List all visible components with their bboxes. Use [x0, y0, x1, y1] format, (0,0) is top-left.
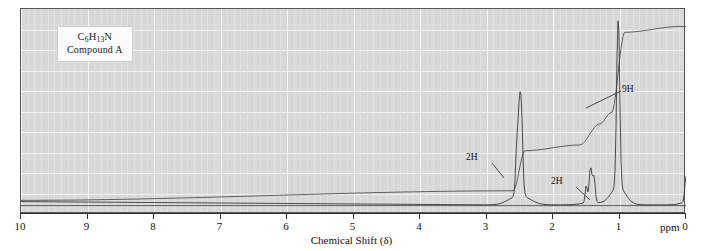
axis-tick [286, 213, 287, 219]
axis-tick-label: 10 [5, 220, 35, 232]
integration-label-2h-b: 2H [551, 176, 563, 186]
axis-tick-label: 3 [471, 220, 501, 232]
x-axis-title: Chemical Shift (δ) [0, 234, 703, 246]
axis-tick [353, 213, 354, 219]
nmr-spectrum-figure: C6H13N Compound A 9H 2H 2H ppm Chemical … [0, 0, 703, 251]
compound-name: Compound A [67, 44, 123, 57]
formula-element-n: N [104, 31, 112, 42]
axis-tick [619, 213, 620, 219]
axis-tick [685, 213, 686, 219]
plot-area: C6H13N Compound A [20, 8, 685, 213]
axis-tick [220, 213, 221, 219]
compound-label-box: C6H13N Compound A [57, 26, 133, 62]
axis-tick-label: 5 [338, 220, 368, 232]
axis-tick [153, 213, 154, 219]
axis-tick-label: 2 [537, 220, 567, 232]
molecular-formula: C6H13N [67, 30, 123, 44]
axis-tick-label: 0 [670, 220, 700, 232]
axis-tick [419, 213, 420, 219]
axis-tick-label: 1 [604, 220, 634, 232]
axis-tick-label: 6 [271, 220, 301, 232]
axis-tick-label: 4 [404, 220, 434, 232]
axis-tick [20, 213, 21, 219]
axis-tick-label: 7 [205, 220, 235, 232]
axis-tick [486, 213, 487, 219]
integration-label-9h: 9H [622, 84, 634, 94]
gridline-vertical [686, 9, 687, 212]
axis-tick [87, 213, 88, 219]
axis-tick-label: 9 [72, 220, 102, 232]
axis-tick-label: 8 [138, 220, 168, 232]
axis-tick [552, 213, 553, 219]
integration-label-2h-a: 2H [466, 152, 478, 162]
formula-element-c: C [77, 31, 84, 42]
